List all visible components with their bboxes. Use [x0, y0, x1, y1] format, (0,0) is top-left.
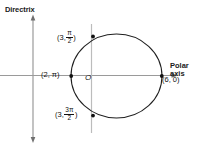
- point-label-bottom-denominator: 2: [67, 115, 73, 122]
- polar-ellipse-figure: Directrix Polar axis O (3, π 2 ) (2, π) …: [0, 0, 200, 146]
- directrix-label: Directrix: [5, 6, 35, 14]
- point-left-marker: [69, 74, 73, 78]
- directrix-line: [31, 15, 36, 144]
- directrix-arrow-up-icon: [31, 15, 36, 21]
- point-label-top-fraction: π 2: [66, 30, 73, 45]
- point-label-left: (2, π): [41, 71, 60, 79]
- point-label-bottom: (3, 3π 2 ): [55, 107, 77, 122]
- point-label-bottom-open: (3,: [55, 111, 64, 119]
- point-label-top: (3, π 2 ): [57, 30, 76, 45]
- point-label-top-open: (3,: [57, 34, 66, 42]
- point-label-bottom-fraction: 3π 2: [64, 107, 74, 122]
- point-bottom-marker: [91, 114, 95, 118]
- point-label-top-denominator: 2: [67, 38, 73, 45]
- point-label-top-close: ): [73, 34, 76, 42]
- directrix-arrow-down-icon: [31, 137, 36, 143]
- point-top-marker: [91, 35, 95, 39]
- origin-label: O: [85, 74, 91, 82]
- point-label-right: (6, 0): [162, 76, 180, 84]
- point-label-bottom-close: ): [75, 111, 78, 119]
